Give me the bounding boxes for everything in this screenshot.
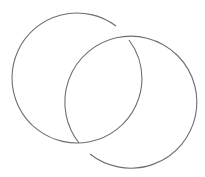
left-ring [12,13,142,143]
interlocking-rings-diagram [0,0,205,177]
right-ring [65,36,197,168]
